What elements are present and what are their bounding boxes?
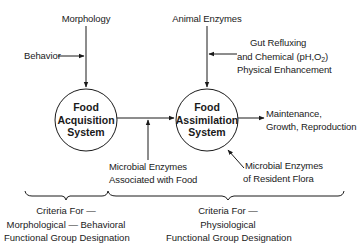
criteria-left-line2: Morphological — Behavioral: [4, 218, 128, 232]
assimilation-node: Food Assimilation System: [172, 101, 242, 139]
gut-line1: Gut Refluxing: [250, 36, 332, 50]
behavior-label: Behavior: [24, 50, 61, 62]
left-brace: [25, 191, 108, 200]
gut-label: Gut Refluxing and Chemical (pH,O2) Physi…: [250, 36, 332, 77]
criteria-left-line1: Criteria For —: [4, 204, 128, 218]
maintenance-line2: Growth, Reproduction: [266, 120, 356, 133]
criteria-right-line2: Physiological: [166, 218, 290, 232]
criteria-right: Criteria For — Physiological Functional …: [166, 204, 290, 245]
assimilation-line1: Food: [172, 101, 242, 114]
animal-enzymes-label: Animal Enzymes: [172, 13, 242, 25]
acquisition-node: Food Acquisition System: [56, 101, 116, 139]
microbial-flora-line1: Microbial Enzymes: [245, 159, 323, 172]
microbial-food-line2: Associated with Food: [109, 173, 197, 186]
assimilation-line3: System: [172, 126, 242, 139]
microbial-flora-label: Microbial Enzymes of Resident Flora: [245, 159, 323, 185]
acquisition-line2: Acquisition: [56, 114, 116, 127]
criteria-left: Criteria For — Morphological — Behaviora…: [4, 204, 128, 245]
gut-line2-text: and Chemical (pH,O: [237, 51, 321, 62]
assimilation-line2: Assimilation: [172, 114, 242, 127]
criteria-right-line3: Functional Group Designation: [166, 231, 290, 245]
criteria-left-line3: Functional Group Designation: [4, 231, 128, 245]
microbial-food-label: Microbial Enzymes Associated with Food: [109, 160, 197, 186]
microbial-flora-line2: of Resident Flora: [243, 172, 323, 185]
gut-line2-close: ): [325, 51, 328, 62]
maintenance-label: Maintenance, Growth, Reproduction: [266, 107, 356, 133]
gut-line3: Physical Enhancement: [237, 63, 332, 77]
flora-arrow: [228, 150, 244, 168]
microbial-food-line1: Microbial Enzymes: [109, 160, 197, 173]
acquisition-line3: System: [56, 126, 116, 139]
morphology-label: Morphology: [56, 13, 116, 25]
acquisition-line1: Food: [56, 101, 116, 114]
gut-line2: and Chemical (pH,O2): [237, 50, 332, 64]
criteria-right-line1: Criteria For —: [166, 204, 290, 218]
right-brace: [108, 191, 344, 200]
maintenance-line1: Maintenance,: [266, 107, 356, 120]
